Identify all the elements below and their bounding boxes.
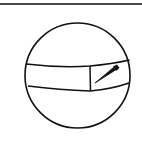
band-icon xyxy=(26,60,130,91)
sphere-edit-illustration xyxy=(0,0,142,141)
pencil-icon xyxy=(95,65,120,84)
sphere-icon xyxy=(25,23,130,128)
